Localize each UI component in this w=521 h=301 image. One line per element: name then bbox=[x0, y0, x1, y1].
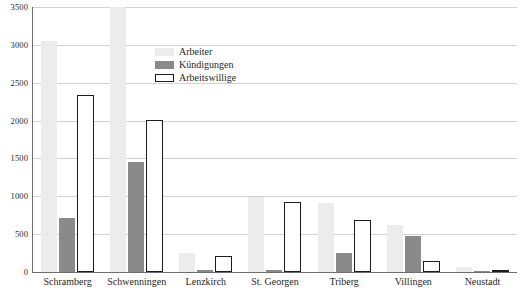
legend-swatch-icon bbox=[155, 61, 174, 69]
bar-kuendigungen[interactable] bbox=[266, 270, 282, 272]
bar-kuendigungen[interactable] bbox=[336, 253, 352, 272]
bar-group bbox=[33, 7, 102, 272]
legend-label: Arbeiter bbox=[179, 47, 212, 57]
bar-arbeiter[interactable] bbox=[110, 7, 126, 272]
y-tick-label: 1000 bbox=[11, 192, 28, 201]
bar-kuendigungen[interactable] bbox=[197, 270, 213, 272]
x-tick-label: Schramberg bbox=[33, 276, 102, 298]
y-tick-label: 3500 bbox=[11, 3, 28, 12]
bar-group bbox=[240, 7, 309, 272]
bar-group bbox=[448, 7, 517, 272]
bar-arbeitswillige[interactable] bbox=[354, 220, 371, 272]
y-tick-label: 500 bbox=[15, 230, 28, 239]
bar-arbeiter[interactable] bbox=[456, 267, 472, 272]
x-tick-label: St. Georgen bbox=[240, 276, 309, 298]
x-axis: SchrambergSchwenningenLenzkirchSt. Georg… bbox=[33, 276, 517, 298]
x-tick-label: Villingen bbox=[379, 276, 448, 298]
bar-arbeiter[interactable] bbox=[248, 197, 264, 272]
legend-item[interactable]: Kündigungen bbox=[155, 59, 236, 71]
y-tick-label: 2000 bbox=[11, 116, 28, 125]
y-tick-label: 1500 bbox=[11, 154, 28, 163]
y-tick-label: 2500 bbox=[11, 78, 28, 87]
legend-item[interactable]: Arbeitswillige bbox=[155, 72, 236, 84]
chart-legend: ArbeiterKündigungenArbeitswillige bbox=[155, 46, 236, 84]
bar-group bbox=[379, 7, 448, 272]
y-axis: 0500100015002000250030003500 bbox=[0, 0, 30, 301]
gridline bbox=[33, 272, 517, 273]
bar-chart: 0500100015002000250030003500 ArbeiterKün… bbox=[0, 0, 521, 301]
legend-swatch-icon bbox=[155, 74, 174, 82]
legend-swatch-icon bbox=[155, 48, 174, 56]
x-tick-label: Lenzkirch bbox=[171, 276, 240, 298]
bar-arbeitswillige[interactable] bbox=[146, 120, 163, 272]
bar-group bbox=[310, 7, 379, 272]
legend-item[interactable]: Arbeiter bbox=[155, 46, 236, 58]
y-tick-label: 3000 bbox=[11, 41, 28, 50]
x-tick-label: Neustadt bbox=[448, 276, 517, 298]
bar-kuendigungen[interactable] bbox=[59, 218, 75, 273]
bar-kuendigungen[interactable] bbox=[128, 162, 144, 272]
bar-kuendigungen[interactable] bbox=[405, 236, 421, 272]
bar-arbeiter[interactable] bbox=[318, 203, 334, 272]
bar-arbeiter[interactable] bbox=[387, 225, 403, 272]
x-tick-label: Triberg bbox=[310, 276, 379, 298]
plot-area bbox=[32, 7, 517, 273]
bar-arbeitswillige[interactable] bbox=[492, 270, 509, 272]
legend-label: Kündigungen bbox=[179, 60, 233, 70]
bar-arbeiter[interactable] bbox=[41, 41, 57, 272]
bar-arbeitswillige[interactable] bbox=[423, 261, 440, 272]
legend-label: Arbeitswillige bbox=[179, 73, 236, 83]
bar-groups bbox=[33, 7, 517, 272]
y-tick-label: 0 bbox=[24, 268, 28, 277]
bar-kuendigungen[interactable] bbox=[474, 271, 490, 273]
bar-arbeitswillige[interactable] bbox=[77, 95, 94, 272]
bar-arbeitswillige[interactable] bbox=[284, 202, 301, 272]
bar-arbeiter[interactable] bbox=[179, 253, 195, 272]
x-tick-label: Schwenningen bbox=[102, 276, 171, 298]
bar-arbeitswillige[interactable] bbox=[215, 256, 232, 272]
